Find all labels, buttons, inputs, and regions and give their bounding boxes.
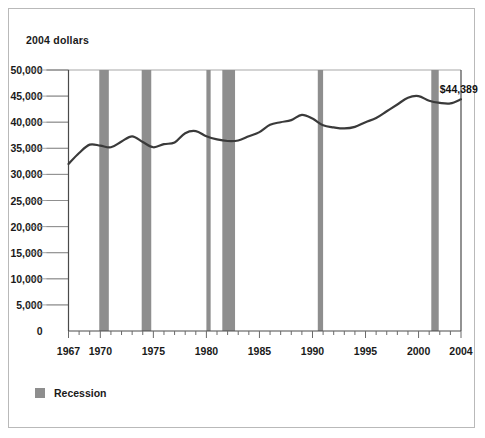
x-tick-label: 1975 — [142, 345, 166, 357]
recession-band — [99, 70, 109, 331]
x-tick-label: 1967 — [57, 345, 81, 357]
x-tick-label: 1985 — [248, 345, 272, 357]
recession-band — [206, 70, 210, 331]
recession-band — [431, 70, 438, 331]
x-tick-label: 2000 — [407, 345, 431, 357]
chart-svg: 05,00010,00015,00020,00025,00030,00035,0… — [0, 0, 485, 438]
legend-swatch-recession — [35, 388, 45, 398]
income-line-series — [69, 96, 462, 164]
chart-plot-area: 05,00010,00015,00020,00025,00030,00035,0… — [0, 0, 485, 438]
x-tick-label: 1995 — [354, 345, 378, 357]
x-tick-label: 2004 — [449, 345, 473, 357]
chart-page: 2004 dollars 05,00010,00015,00020,00025,… — [0, 0, 485, 438]
y-tick-label: 0 — [37, 325, 43, 337]
recession-band — [318, 70, 323, 331]
legend-label-recession: Recession — [54, 387, 107, 399]
recession-band — [222, 70, 235, 331]
x-tick-label: 1980 — [195, 345, 219, 357]
x-tick-label: 1990 — [301, 345, 325, 357]
data-point-label: $44,389 — [440, 83, 478, 95]
x-tick-label: 1970 — [89, 345, 113, 357]
recession-band — [142, 70, 152, 331]
